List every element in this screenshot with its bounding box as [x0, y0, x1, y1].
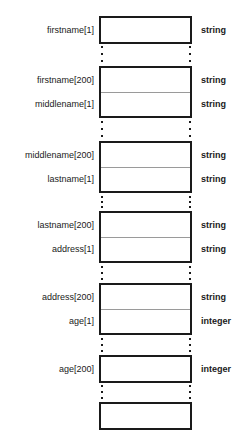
memory-cell [101, 309, 190, 333]
data-type-label: string [201, 244, 246, 254]
continuation-dots-icon [189, 46, 191, 62]
memory-cell [101, 92, 190, 116]
variable-name-label: address[1] [0, 244, 94, 254]
continuation-dots-icon [101, 46, 103, 62]
data-type-label: string [201, 174, 246, 184]
data-type-label: integer [201, 364, 246, 374]
variable-name-label: firstname[200] [0, 75, 94, 85]
memory-cell [101, 167, 190, 191]
data-type-label: string [201, 150, 246, 160]
memory-block [99, 402, 192, 430]
data-type-label: string [201, 75, 246, 85]
memory-block [99, 355, 192, 383]
variable-name-label: firstname[1] [0, 25, 94, 35]
data-type-label: integer [201, 316, 246, 326]
variable-name-label: age[1] [0, 316, 94, 326]
variable-name-label: lastname[200] [0, 220, 94, 230]
memory-cell [101, 404, 190, 428]
memory-block [99, 16, 192, 44]
memory-cell [101, 18, 190, 42]
memory-block [99, 141, 192, 193]
continuation-dots-icon [101, 338, 103, 352]
memory-cell [101, 143, 190, 167]
data-type-label: string [201, 220, 246, 230]
continuation-dots-icon [189, 121, 191, 137]
continuation-dots-icon [101, 121, 103, 137]
variable-name-label: address[200] [0, 292, 94, 302]
data-type-label: string [201, 25, 246, 35]
memory-layout-diagram: firstname[1]stringfirstname[200]stringmi… [0, 0, 246, 438]
continuation-dots-icon [189, 385, 191, 399]
variable-name-label: lastname[1] [0, 174, 94, 184]
data-type-label: string [201, 99, 246, 109]
memory-cell [101, 68, 190, 92]
continuation-dots-icon [101, 266, 103, 280]
memory-cell [101, 213, 190, 237]
memory-block [99, 66, 192, 118]
data-type-label: string [201, 292, 246, 302]
continuation-dots-icon [101, 196, 103, 208]
memory-block [99, 211, 192, 263]
memory-cell [101, 285, 190, 309]
memory-cell [101, 357, 190, 381]
continuation-dots-icon [189, 266, 191, 280]
variable-name-label: middlename[200] [0, 150, 94, 160]
continuation-dots-icon [101, 385, 103, 399]
variable-name-label: age[200] [0, 364, 94, 374]
memory-cell [101, 237, 190, 261]
variable-name-label: middlename[1] [0, 99, 94, 109]
continuation-dots-icon [189, 338, 191, 352]
memory-block [99, 283, 192, 335]
continuation-dots-icon [189, 196, 191, 208]
